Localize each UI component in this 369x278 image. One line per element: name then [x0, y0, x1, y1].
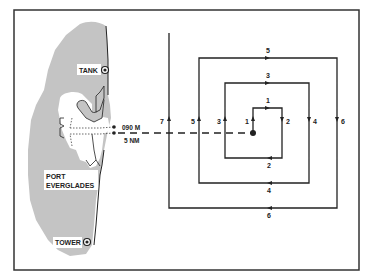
- leg-label-top-1: 1: [266, 97, 270, 104]
- leg-label-right-6: 6: [341, 118, 345, 125]
- expanding-square-path: 1 3 5 2 4 6 2 4 6 1 3 5 7: [160, 33, 345, 219]
- leg-label-left-5: 5: [191, 118, 195, 125]
- tower-label: TOWER: [55, 239, 81, 246]
- coastline-landmass: [28, 22, 114, 256]
- leg-label-right-2: 2: [286, 118, 290, 125]
- distance-label: 5 NM: [124, 137, 140, 144]
- leg-label-top-3: 3: [266, 72, 270, 79]
- tank-label: TANK: [79, 67, 98, 74]
- leg-label-bottom-6: 6: [267, 212, 271, 219]
- leg-label-bottom-4: 4: [267, 187, 271, 194]
- leg-label-left-7: 7: [160, 118, 164, 125]
- port-label-line2: EVERGLADES: [46, 182, 95, 189]
- leg-label-bottom-2: 2: [267, 162, 271, 169]
- datum-reference: 090 M 5 NM: [112, 124, 253, 144]
- start-point-icon: [250, 130, 256, 136]
- port-label-line1: PORT: [46, 173, 66, 180]
- leg-label-left-1: 1: [245, 118, 249, 125]
- bearing-label: 090 M: [122, 124, 140, 131]
- leg-label-right-4: 4: [313, 118, 317, 125]
- leg-label-left-3: 3: [217, 118, 221, 125]
- leg-label-top-5: 5: [266, 47, 270, 54]
- port-everglades-label-group: PORT EVERGLADES: [44, 170, 98, 190]
- search-pattern-diagram: TANK PORT EVERGLADES TOWER 090 M 5 NM: [0, 0, 369, 278]
